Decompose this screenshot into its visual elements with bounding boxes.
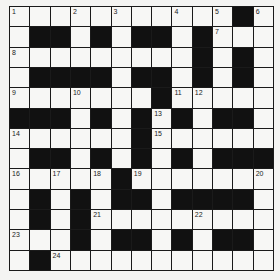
answer-cell[interactable] bbox=[30, 48, 49, 67]
answer-cell[interactable] bbox=[254, 129, 273, 148]
answer-cell[interactable] bbox=[213, 129, 232, 148]
answer-cell[interactable] bbox=[213, 88, 232, 107]
answer-cell[interactable] bbox=[213, 48, 232, 67]
answer-cell[interactable] bbox=[213, 251, 232, 270]
answer-cell[interactable] bbox=[51, 210, 70, 229]
answer-cell[interactable]: 15 bbox=[152, 129, 171, 148]
answer-cell[interactable] bbox=[254, 27, 273, 46]
answer-cell[interactable] bbox=[254, 48, 273, 67]
answer-cell[interactable]: 7 bbox=[213, 27, 232, 46]
answer-cell[interactable] bbox=[193, 169, 212, 188]
answer-cell[interactable] bbox=[91, 88, 110, 107]
answer-cell[interactable]: 12 bbox=[193, 88, 212, 107]
answer-cell[interactable] bbox=[132, 251, 151, 270]
answer-cell[interactable] bbox=[112, 68, 131, 87]
answer-cell[interactable] bbox=[112, 109, 131, 128]
answer-cell[interactable] bbox=[51, 88, 70, 107]
answer-cell[interactable] bbox=[91, 7, 110, 26]
answer-cell[interactable]: 23 bbox=[10, 230, 29, 249]
answer-cell[interactable] bbox=[71, 149, 90, 168]
answer-cell[interactable]: 16 bbox=[10, 169, 29, 188]
answer-cell[interactable] bbox=[254, 230, 273, 249]
answer-cell[interactable] bbox=[51, 129, 70, 148]
answer-cell[interactable]: 2 bbox=[71, 7, 90, 26]
answer-cell[interactable] bbox=[233, 27, 252, 46]
answer-cell[interactable] bbox=[10, 68, 29, 87]
answer-cell[interactable] bbox=[193, 109, 212, 128]
answer-cell[interactable] bbox=[233, 169, 252, 188]
answer-cell[interactable] bbox=[71, 109, 90, 128]
answer-cell[interactable] bbox=[193, 7, 212, 26]
answer-cell[interactable] bbox=[254, 68, 273, 87]
answer-cell[interactable] bbox=[112, 210, 131, 229]
answer-cell[interactable] bbox=[51, 190, 70, 209]
answer-cell[interactable] bbox=[10, 190, 29, 209]
answer-cell[interactable] bbox=[152, 190, 171, 209]
answer-cell[interactable] bbox=[254, 109, 273, 128]
answer-cell[interactable] bbox=[30, 230, 49, 249]
answer-cell[interactable] bbox=[51, 230, 70, 249]
answer-cell[interactable] bbox=[51, 48, 70, 67]
answer-cell[interactable] bbox=[233, 251, 252, 270]
answer-cell[interactable] bbox=[172, 48, 191, 67]
answer-cell[interactable] bbox=[112, 48, 131, 67]
answer-cell[interactable] bbox=[172, 169, 191, 188]
answer-cell[interactable]: 5 bbox=[213, 7, 232, 26]
answer-cell[interactable] bbox=[91, 129, 110, 148]
answer-cell[interactable] bbox=[233, 210, 252, 229]
answer-cell[interactable]: 21 bbox=[91, 210, 110, 229]
answer-cell[interactable]: 10 bbox=[71, 88, 90, 107]
answer-cell[interactable]: 6 bbox=[254, 7, 273, 26]
answer-cell[interactable] bbox=[152, 251, 171, 270]
answer-cell[interactable] bbox=[132, 88, 151, 107]
answer-cell[interactable] bbox=[10, 251, 29, 270]
answer-cell[interactable] bbox=[132, 210, 151, 229]
answer-cell[interactable] bbox=[152, 230, 171, 249]
answer-cell[interactable] bbox=[112, 88, 131, 107]
answer-cell[interactable]: 1 bbox=[10, 7, 29, 26]
answer-cell[interactable]: 4 bbox=[172, 7, 191, 26]
answer-cell[interactable] bbox=[112, 251, 131, 270]
answer-cell[interactable] bbox=[112, 149, 131, 168]
answer-cell[interactable] bbox=[30, 7, 49, 26]
answer-cell[interactable] bbox=[193, 251, 212, 270]
answer-cell[interactable] bbox=[233, 88, 252, 107]
answer-cell[interactable] bbox=[112, 129, 131, 148]
answer-cell[interactable]: 18 bbox=[91, 169, 110, 188]
answer-cell[interactable] bbox=[152, 48, 171, 67]
answer-cell[interactable] bbox=[152, 149, 171, 168]
answer-cell[interactable]: 9 bbox=[10, 88, 29, 107]
answer-cell[interactable] bbox=[91, 190, 110, 209]
answer-cell[interactable] bbox=[71, 129, 90, 148]
answer-cell[interactable]: 17 bbox=[51, 169, 70, 188]
answer-cell[interactable] bbox=[254, 190, 273, 209]
answer-cell[interactable] bbox=[71, 27, 90, 46]
answer-cell[interactable] bbox=[71, 251, 90, 270]
answer-cell[interactable] bbox=[152, 7, 171, 26]
answer-cell[interactable] bbox=[10, 27, 29, 46]
answer-cell[interactable] bbox=[152, 210, 171, 229]
answer-cell[interactable] bbox=[91, 48, 110, 67]
answer-cell[interactable] bbox=[172, 129, 191, 148]
answer-cell[interactable]: 3 bbox=[112, 7, 131, 26]
answer-cell[interactable] bbox=[254, 88, 273, 107]
answer-cell[interactable] bbox=[254, 210, 273, 229]
answer-cell[interactable] bbox=[193, 149, 212, 168]
answer-cell[interactable]: 22 bbox=[193, 210, 212, 229]
answer-cell[interactable] bbox=[213, 169, 232, 188]
answer-cell[interactable] bbox=[71, 48, 90, 67]
answer-cell[interactable] bbox=[233, 129, 252, 148]
answer-cell[interactable] bbox=[172, 210, 191, 229]
answer-cell[interactable] bbox=[112, 27, 131, 46]
answer-cell[interactable] bbox=[51, 7, 70, 26]
answer-cell[interactable] bbox=[213, 210, 232, 229]
answer-cell[interactable]: 11 bbox=[172, 88, 191, 107]
answer-cell[interactable]: 24 bbox=[51, 251, 70, 270]
answer-cell[interactable] bbox=[132, 48, 151, 67]
answer-cell[interactable] bbox=[172, 251, 191, 270]
answer-cell[interactable] bbox=[30, 169, 49, 188]
answer-cell[interactable]: 8 bbox=[10, 48, 29, 67]
answer-cell[interactable] bbox=[91, 230, 110, 249]
answer-cell[interactable] bbox=[91, 251, 110, 270]
answer-cell[interactable] bbox=[132, 7, 151, 26]
